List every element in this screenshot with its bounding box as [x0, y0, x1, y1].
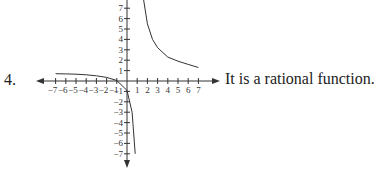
y-tick-label: 5 — [119, 24, 124, 34]
x-tick-label: −6 — [58, 85, 68, 95]
x-tick-label: 1 — [135, 85, 140, 95]
y-tick-label: −1 — [113, 86, 123, 96]
y-tick-label: 2 — [119, 55, 124, 65]
y-tick-label: 4 — [119, 34, 124, 44]
x-tick-label: −7 — [48, 85, 58, 95]
y-tick-label: 1 — [119, 66, 124, 76]
x-tick-label: 3 — [155, 85, 160, 95]
x-tick-label: 6 — [186, 85, 191, 95]
x-tick-label: 4 — [166, 85, 171, 95]
y-axis-down-arrow-icon — [124, 160, 130, 168]
y-tick-label: −3 — [113, 107, 123, 117]
y-tick-label: −4 — [113, 118, 123, 128]
x-tick-label: −3 — [89, 85, 99, 95]
y-tick-label: −5 — [113, 128, 123, 138]
y-tick-label: −2 — [113, 97, 123, 107]
y-tick-label: −6 — [113, 138, 123, 148]
x-tick-label: 2 — [145, 85, 150, 95]
y-tick-label: 6 — [119, 14, 124, 24]
problem-statement: It is a rational function. — [225, 70, 375, 88]
x-tick-label: 5 — [176, 85, 181, 95]
x-tick-label: 7 — [196, 85, 201, 95]
y-tick-label: 3 — [119, 45, 124, 55]
x-tick-label: −2 — [99, 85, 109, 95]
y-tick-label: 7 — [119, 3, 124, 13]
x-axis-left-arrow-icon — [36, 78, 44, 84]
curve-right-branch — [143, 0, 198, 67]
x-axis-right-arrow-icon — [212, 78, 220, 84]
y-tick-label: −7 — [113, 149, 123, 159]
x-tick-label: −5 — [68, 85, 78, 95]
x-tick-label: −4 — [78, 85, 88, 95]
